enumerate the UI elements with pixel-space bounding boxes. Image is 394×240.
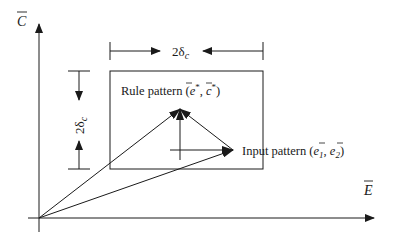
svg-text:Input pattern (e1, e2): Input pattern (e1, e2) <box>242 144 344 160</box>
y-axis-label-text: C <box>17 14 27 29</box>
pattern-space-diagram: C E 2δc 2δc Rule pattern (e*, c*) <box>0 0 394 240</box>
y-axis-label: C <box>17 12 27 29</box>
rule-pattern-label: Rule pattern (e*, c*) <box>121 82 220 98</box>
difference-vector <box>180 109 233 150</box>
vertical-dimension-label: 2δc <box>72 116 89 134</box>
horizontal-dimension: 2δc <box>110 42 263 61</box>
x-axis-label: E <box>363 181 373 198</box>
horizontal-dimension-label: 2δc <box>172 44 190 61</box>
vertical-dimension: 2δc <box>68 71 90 169</box>
input-pattern-label: Input pattern (e1, e2) <box>242 143 344 160</box>
input-vector <box>39 150 233 218</box>
x-axis-label-text: E <box>363 183 373 198</box>
svg-text:Rule pattern (e*, c*): Rule pattern (e*, c*) <box>121 82 220 98</box>
